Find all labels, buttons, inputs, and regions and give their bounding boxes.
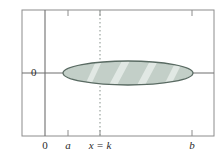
x-tick-label-k: x = k bbox=[89, 140, 112, 151]
solid-of-revolution bbox=[63, 59, 193, 87]
x-tick-label-b: b bbox=[189, 140, 195, 151]
top-tick-marks bbox=[68, 10, 192, 16]
figure-container: 0 0 a x = k b bbox=[0, 0, 224, 155]
x-tick-label-0: 0 bbox=[42, 140, 48, 151]
origin-label: 0 bbox=[31, 67, 37, 78]
x-tick-label-a: a bbox=[65, 140, 71, 151]
bottom-tick-marks bbox=[68, 130, 192, 136]
